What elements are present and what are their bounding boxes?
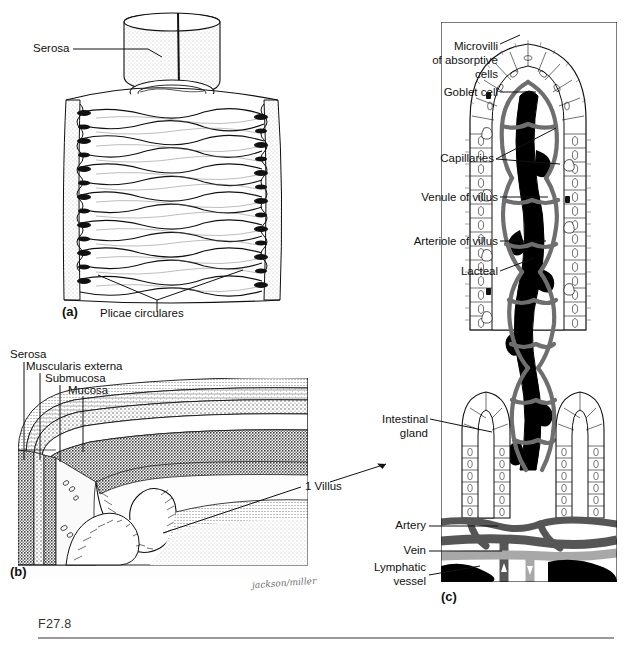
label-intestinal-gland-line2: gland	[340, 427, 428, 441]
label-microvilli-line1: Microvilli	[380, 40, 498, 54]
label-lymphatic-vessel-line1: Lymphatic	[332, 561, 426, 575]
label-serosa-a: Serosa	[33, 42, 69, 56]
label-microvilli-line2: of absorptive	[380, 54, 498, 68]
label-lymphatic-vessel-line2: vessel	[332, 575, 426, 589]
label-vein: Vein	[340, 544, 426, 558]
panel-c-id: (c)	[441, 589, 457, 604]
figure-small-intestine: Serosa Plicae circulares (a) Serosa Musc…	[0, 0, 642, 648]
label-venule-of-villus: Venule of villus	[370, 191, 498, 205]
figure-artwork	[0, 0, 642, 648]
label-lacteal: Lacteal	[380, 265, 498, 279]
label-microvilli-line3: cells	[380, 68, 498, 82]
label-capillaries: Capillaries	[380, 152, 494, 166]
label-one-villus: 1 Villus	[305, 480, 342, 494]
label-intestinal-gland-line1: Intestinal	[340, 413, 428, 427]
panel-b-id: (b)	[10, 564, 27, 579]
figure-id: F27.8	[38, 617, 71, 631]
label-plicae-circulares: Plicae circulares	[100, 307, 184, 321]
label-arteriole-of-villus: Arteriole of villus	[366, 235, 498, 249]
panel-a-artwork	[63, 13, 281, 312]
panel-a-id: (a)	[62, 304, 78, 319]
footer-rule	[38, 637, 614, 639]
label-artery: Artery	[340, 519, 426, 533]
label-goblet-cell: Goblet cell	[380, 86, 498, 100]
panel-c-artwork	[429, 22, 617, 583]
label-mucosa: Mucosa	[68, 384, 108, 398]
